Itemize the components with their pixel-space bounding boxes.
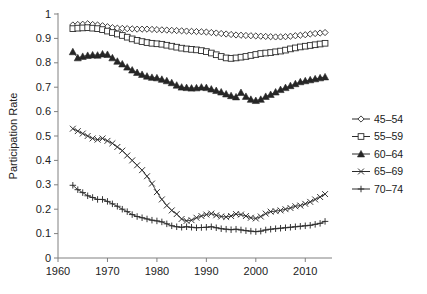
- chart-series: [69, 21, 328, 235]
- data-point-open-square: [322, 40, 328, 46]
- y-tick-label: 0.9: [36, 32, 51, 44]
- data-point-filled-triangle: [69, 48, 76, 54]
- data-point-plus: [243, 227, 250, 234]
- legend-item-70-74[interactable]: 70–74: [352, 183, 403, 195]
- y-axis-ticks: 00.10.20.30.40.50.60.70.80.91: [36, 8, 58, 264]
- y-tick-label: 0.6: [36, 105, 51, 117]
- legend-label: 55–59: [374, 130, 403, 142]
- x-tick-label: 1960: [46, 265, 70, 277]
- data-point-x-cross: [159, 196, 165, 202]
- participation-rate-line-chart: 00.10.20.30.40.50.60.70.80.9119601970198…: [0, 0, 427, 294]
- data-point-plus: [262, 227, 269, 234]
- y-tick-label: 0.1: [36, 227, 51, 239]
- y-tick-label: 0.3: [36, 178, 51, 190]
- data-point-x-cross: [95, 137, 101, 143]
- x-tick-label: 1970: [95, 265, 119, 277]
- data-point-plus: [292, 224, 299, 231]
- data-point-plus: [258, 228, 265, 235]
- data-point-plus: [312, 221, 319, 228]
- legend-item-55-59[interactable]: 55–59: [352, 130, 403, 142]
- y-axis-title: Participation Rate: [7, 93, 19, 180]
- data-point-plus: [173, 224, 180, 231]
- series-markers: [69, 48, 328, 103]
- y-tick-label: 1: [45, 8, 51, 20]
- x-tick-label: 2000: [244, 265, 268, 277]
- x-tick-label: 1980: [145, 265, 169, 277]
- legend-item-45-54[interactable]: 45–54: [352, 113, 403, 125]
- chart-container: 00.10.20.30.40.50.60.70.80.9119601970198…: [0, 0, 427, 294]
- data-point-plus: [139, 214, 146, 221]
- x-tick-label: 2010: [293, 265, 317, 277]
- data-point-plus: [238, 227, 245, 234]
- data-point-x-cross: [283, 206, 289, 212]
- data-point-x-cross: [114, 144, 120, 150]
- y-tick-label: 0.4: [36, 154, 51, 166]
- legend-label: 45–54: [374, 113, 403, 125]
- data-point-x-cross: [179, 216, 185, 222]
- data-point-x-cross: [144, 173, 150, 179]
- data-point-plus: [208, 224, 215, 231]
- data-point-plus: [358, 186, 365, 193]
- data-point-plus: [84, 193, 91, 200]
- data-point-plus: [253, 228, 260, 235]
- y-tick-label: 0.5: [36, 130, 51, 142]
- data-point-plus: [228, 226, 235, 233]
- data-point-x-cross: [169, 207, 175, 213]
- data-point-x-cross: [243, 213, 249, 219]
- legend-item-65-69[interactable]: 65–69: [352, 165, 403, 177]
- data-point-x-cross: [154, 189, 160, 195]
- data-point-plus: [267, 226, 274, 233]
- y-tick-label: 0: [45, 252, 51, 264]
- data-point-plus: [307, 222, 314, 229]
- data-point-open-diamond: [322, 29, 328, 35]
- data-point-plus: [183, 224, 190, 231]
- series-markers: [70, 126, 328, 224]
- data-point-x-cross: [139, 167, 145, 173]
- data-point-open-square: [358, 134, 364, 140]
- data-point-x-cross: [213, 212, 219, 218]
- data-point-plus: [79, 189, 86, 196]
- series-60-64: [69, 48, 328, 103]
- legend-label: 60–64: [374, 148, 403, 160]
- data-point-plus: [154, 218, 161, 225]
- data-point-plus: [188, 224, 195, 231]
- data-point-plus: [248, 228, 255, 235]
- data-point-filled-triangle: [237, 89, 244, 95]
- data-point-x-cross: [149, 181, 155, 187]
- data-point-plus: [178, 224, 185, 231]
- data-point-open-diamond: [358, 116, 364, 122]
- x-axis-ticks: 196019701980199020002010: [46, 258, 318, 277]
- data-point-plus: [223, 226, 230, 233]
- data-point-plus: [213, 224, 220, 231]
- legend-item-60-64[interactable]: 60–64: [352, 148, 403, 160]
- data-point-plus: [144, 216, 151, 223]
- data-point-plus: [218, 225, 225, 232]
- data-point-x-cross: [198, 213, 204, 219]
- legend-label: 65–69: [374, 165, 403, 177]
- series-65-69: [70, 126, 328, 224]
- x-tick-label: 1990: [194, 265, 218, 277]
- y-tick-label: 0.8: [36, 56, 51, 68]
- data-point-plus: [233, 226, 240, 233]
- data-point-plus: [272, 225, 279, 232]
- data-point-plus: [287, 224, 294, 231]
- y-tick-label: 0.7: [36, 81, 51, 93]
- data-point-plus: [297, 223, 304, 230]
- chart-legend: 45–5455–5960–6465–6970–74: [352, 113, 403, 195]
- data-point-plus: [282, 224, 289, 231]
- legend-label: 70–74: [374, 183, 403, 195]
- data-point-x-cross: [302, 201, 308, 207]
- data-point-plus: [203, 224, 210, 231]
- data-point-filled-triangle: [321, 73, 328, 79]
- y-tick-label: 0.2: [36, 203, 51, 215]
- data-point-plus: [149, 217, 156, 224]
- data-point-plus: [302, 223, 309, 230]
- data-point-x-cross: [287, 205, 293, 211]
- data-point-plus: [277, 225, 284, 232]
